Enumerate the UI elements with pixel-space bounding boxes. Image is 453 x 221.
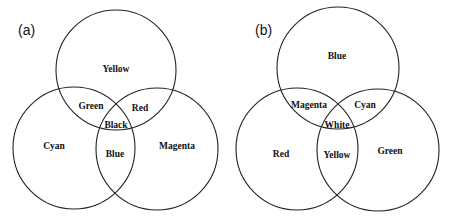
panel-a: (a) Yellow Green Red Black Cyan Blue Mag… bbox=[13, 10, 218, 210]
venn-diagram-figure: (a) Yellow Green Red Black Cyan Blue Mag… bbox=[0, 0, 453, 221]
region-top-right-a: Red bbox=[132, 103, 149, 113]
region-top-a: Yellow bbox=[103, 64, 130, 74]
circle-left-a bbox=[13, 87, 135, 209]
region-left-b: Red bbox=[273, 149, 290, 159]
panel-a-label: (a) bbox=[18, 22, 35, 38]
region-left-right-b: Yellow bbox=[324, 150, 351, 160]
region-top-right-b: Cyan bbox=[354, 100, 376, 110]
region-center-b: White bbox=[325, 120, 350, 130]
panel-b: (b) Blue Magenta Cyan White Red Yellow G… bbox=[236, 7, 439, 211]
region-top-left-b: Magenta bbox=[291, 100, 327, 110]
region-top-left-a: Green bbox=[78, 101, 104, 111]
region-right-b: Green bbox=[377, 146, 403, 156]
circle-top-b bbox=[277, 7, 399, 129]
region-right-a: Magenta bbox=[159, 141, 195, 151]
region-left-right-a: Blue bbox=[106, 149, 124, 159]
region-center-a: Black bbox=[104, 120, 128, 130]
panel-b-label: (b) bbox=[255, 22, 272, 38]
region-top-b: Blue bbox=[328, 51, 346, 61]
region-left-a: Cyan bbox=[43, 141, 65, 151]
